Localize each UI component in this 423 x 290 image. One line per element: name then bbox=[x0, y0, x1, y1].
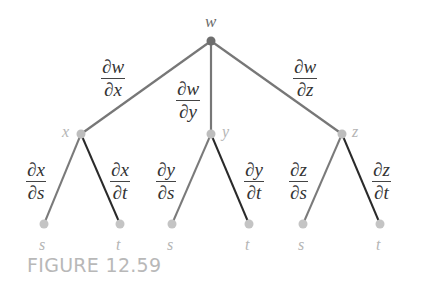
frac-denominator: ∂t bbox=[374, 182, 389, 203]
frac-denominator: ∂s bbox=[290, 182, 307, 203]
frac-numerator: ∂z bbox=[289, 160, 308, 181]
node-y bbox=[207, 130, 216, 139]
edge-y-s bbox=[172, 134, 211, 224]
edge-x-s bbox=[44, 134, 81, 224]
label-leaf-t1: t bbox=[116, 236, 120, 254]
frac-denominator: ∂x bbox=[104, 79, 122, 100]
label-y: y bbox=[222, 123, 229, 141]
node-z bbox=[338, 130, 347, 139]
frac-numerator: ∂x bbox=[110, 160, 130, 181]
frac-numerator: ∂w bbox=[293, 57, 317, 78]
figure-caption: FIGURE 12.59 bbox=[27, 254, 161, 276]
node-w bbox=[207, 37, 216, 46]
frac-denominator: ∂t bbox=[247, 182, 262, 203]
frac-dw-dz: ∂w ∂z bbox=[293, 57, 317, 100]
frac-denominator: ∂t bbox=[113, 182, 128, 203]
frac-numerator: ∂w bbox=[101, 57, 125, 78]
node-leaf-t1 bbox=[116, 220, 125, 229]
frac-dw-dy: ∂w ∂y bbox=[176, 79, 200, 122]
label-leaf-s3: s bbox=[298, 236, 304, 254]
frac-numerator: ∂y bbox=[156, 160, 176, 181]
label-x: x bbox=[62, 123, 69, 141]
label-leaf-t3: t bbox=[376, 236, 380, 254]
frac-numerator: ∂y bbox=[244, 160, 264, 181]
label-leaf-t2: t bbox=[245, 236, 249, 254]
edge-z-s bbox=[303, 134, 342, 224]
frac-dy-ds: ∂y ∂s bbox=[156, 160, 176, 203]
frac-dx-dt: ∂x ∂t bbox=[110, 160, 130, 203]
node-leaf-t3 bbox=[376, 220, 385, 229]
frac-denominator: ∂y bbox=[179, 101, 197, 122]
frac-dz-dt: ∂z ∂t bbox=[372, 160, 391, 203]
node-leaf-s1 bbox=[40, 220, 49, 229]
frac-denominator: ∂s bbox=[158, 182, 175, 203]
tree-diagram bbox=[0, 0, 423, 290]
edge-w-z bbox=[211, 41, 342, 134]
frac-numerator: ∂z bbox=[372, 160, 391, 181]
label-w: w bbox=[205, 12, 216, 32]
frac-denominator: ∂s bbox=[28, 182, 45, 203]
frac-dy-dt: ∂y ∂t bbox=[244, 160, 264, 203]
frac-numerator: ∂w bbox=[176, 79, 200, 100]
frac-dx-ds: ∂x ∂s bbox=[26, 160, 46, 203]
label-leaf-s1: s bbox=[39, 236, 45, 254]
node-leaf-s3 bbox=[299, 220, 308, 229]
frac-dw-dx: ∂w ∂x bbox=[101, 57, 125, 100]
label-leaf-s2: s bbox=[167, 236, 173, 254]
node-leaf-t2 bbox=[245, 220, 254, 229]
node-x bbox=[77, 130, 86, 139]
frac-numerator: ∂x bbox=[26, 160, 46, 181]
frac-dz-ds: ∂z ∂s bbox=[289, 160, 308, 203]
frac-denominator: ∂z bbox=[297, 79, 314, 100]
label-z: z bbox=[352, 123, 358, 141]
node-leaf-s2 bbox=[168, 220, 177, 229]
